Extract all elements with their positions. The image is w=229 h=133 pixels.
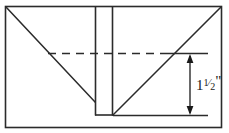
left-diagonal-line — [6, 7, 95, 102]
dimension-label: 11⁄2" — [196, 73, 221, 93]
dimension-arrowhead-bottom — [187, 106, 194, 115]
dimension-unit-mark: " — [215, 73, 221, 89]
diagram-canvas: 11⁄2" — [0, 0, 229, 133]
technical-diagram: 11⁄2" — [0, 0, 229, 133]
dimension-arrowhead-top — [187, 54, 194, 63]
right-diagonal-line — [113, 7, 221, 115]
dimension-whole-number: 1 — [196, 77, 204, 93]
